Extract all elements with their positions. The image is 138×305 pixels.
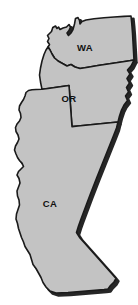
state-label-wa: WA: [77, 42, 93, 53]
map-svg: WA OR CA: [0, 0, 138, 305]
state-label-ca: CA: [43, 198, 58, 209]
west-coast-states-map: WA OR CA: [0, 0, 138, 305]
state-label-or: OR: [61, 93, 76, 104]
